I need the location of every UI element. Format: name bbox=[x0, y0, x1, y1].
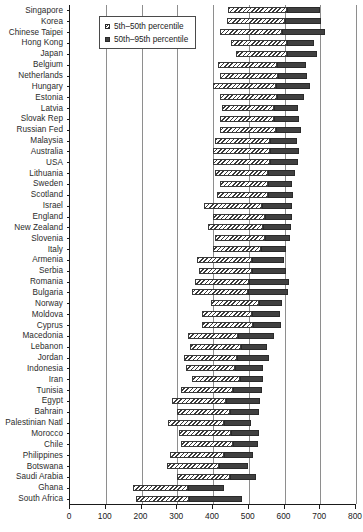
y-tick-mark bbox=[67, 292, 70, 293]
bar-segment-5th-50th bbox=[192, 289, 248, 295]
bar-segment-5th-50th bbox=[186, 365, 235, 371]
category-label: Bahrain bbox=[34, 407, 63, 416]
bar-segment-5th-50th bbox=[220, 181, 268, 187]
bar-segment-50th-95th bbox=[287, 40, 314, 46]
y-tick-mark bbox=[67, 65, 70, 66]
bar-segment-50th-95th bbox=[277, 94, 305, 100]
y-tick-mark bbox=[67, 412, 70, 413]
bar-segment-5th-50th bbox=[211, 300, 259, 306]
bar-segment-50th-95th bbox=[230, 474, 256, 480]
y-tick-mark bbox=[67, 86, 70, 87]
bar-segment-50th-95th bbox=[276, 127, 301, 133]
bar-segment-5th-50th bbox=[204, 203, 262, 209]
bar-segment-5th-50th bbox=[177, 474, 230, 480]
gridline-600 bbox=[285, 5, 286, 504]
x-tick-mark-200 bbox=[141, 505, 142, 509]
bar-segment-5th-50th bbox=[167, 463, 220, 469]
y-tick-mark bbox=[67, 260, 70, 261]
y-tick-mark bbox=[67, 336, 70, 337]
value-axis: 0100200300400500600700800 bbox=[0, 505, 363, 525]
bar-segment-5th-50th bbox=[220, 116, 274, 122]
bar-segment-50th-95th bbox=[252, 268, 286, 274]
y-tick-mark bbox=[67, 282, 70, 283]
x-tick-mark-800 bbox=[355, 505, 356, 509]
category-label: Netherlands bbox=[18, 71, 63, 80]
y-tick-mark bbox=[67, 433, 70, 434]
category-label: USA bbox=[46, 158, 63, 167]
y-tick-mark bbox=[67, 184, 70, 185]
y-tick-mark bbox=[67, 401, 70, 402]
category-label: Armenia bbox=[32, 255, 63, 264]
bar-segment-50th-95th bbox=[265, 235, 290, 241]
bar-segment-50th-95th bbox=[274, 116, 298, 122]
y-tick-mark bbox=[67, 368, 70, 369]
x-tick-mark-300 bbox=[176, 505, 177, 509]
bar-segment-50th-95th bbox=[287, 7, 320, 13]
category-label: Japan bbox=[40, 49, 63, 58]
y-tick-mark bbox=[67, 195, 70, 196]
bar-segment-5th-50th bbox=[188, 333, 238, 339]
bar-segment-5th-50th bbox=[222, 105, 274, 111]
y-tick-mark bbox=[67, 108, 70, 109]
bar-segment-5th-50th bbox=[192, 376, 240, 382]
chart-legend: 5th–50th percentile 50th–95th percentile bbox=[99, 16, 196, 49]
category-label: Bulgaria bbox=[33, 288, 63, 297]
gridline-100 bbox=[106, 5, 107, 504]
x-tick-mark-500 bbox=[248, 505, 249, 509]
y-tick-mark bbox=[67, 466, 70, 467]
bar-segment-50th-95th bbox=[277, 62, 306, 68]
category-label: Moldova bbox=[32, 310, 63, 319]
bar-segment-5th-50th bbox=[202, 311, 252, 317]
x-tick-label: 600 bbox=[277, 512, 291, 521]
bar-segment-5th-50th bbox=[231, 40, 287, 46]
category-label: Italy bbox=[48, 245, 63, 254]
legend-swatch-hatched-icon bbox=[105, 24, 110, 29]
y-tick-mark bbox=[67, 238, 70, 239]
bar-segment-5th-50th bbox=[177, 409, 230, 415]
bar-segment-5th-50th bbox=[213, 159, 270, 165]
y-tick-mark bbox=[67, 32, 70, 33]
category-label: England bbox=[33, 212, 63, 221]
bar-segment-50th-95th bbox=[189, 496, 242, 502]
category-label: Cyprus bbox=[37, 321, 63, 330]
bar-segment-5th-50th bbox=[197, 257, 252, 263]
category-label: Slovak Rep bbox=[21, 114, 63, 123]
y-tick-mark bbox=[67, 271, 70, 272]
category-label: Lithuania bbox=[29, 169, 63, 178]
y-tick-mark bbox=[67, 444, 70, 445]
category-label: Lebanon bbox=[31, 342, 63, 351]
bar-segment-50th-95th bbox=[238, 333, 274, 339]
bar-segment-5th-50th bbox=[213, 214, 265, 220]
x-tick-label: 0 bbox=[67, 512, 72, 521]
y-tick-mark bbox=[67, 54, 70, 55]
gridline-700 bbox=[320, 5, 321, 504]
bar-segment-50th-95th bbox=[235, 365, 263, 371]
bar-segment-50th-95th bbox=[265, 214, 292, 220]
category-label: Botswana bbox=[27, 462, 63, 471]
bar-segment-5th-50th bbox=[199, 268, 253, 274]
bar-segment-50th-95th bbox=[274, 105, 298, 111]
y-tick-mark bbox=[67, 10, 70, 11]
bar-segment-5th-50th bbox=[217, 192, 269, 198]
y-tick-mark bbox=[67, 379, 70, 380]
x-tick-label: 100 bbox=[98, 512, 112, 521]
y-tick-mark bbox=[67, 130, 70, 131]
bar-segment-50th-95th bbox=[276, 83, 311, 89]
y-tick-mark bbox=[67, 314, 70, 315]
bar-segment-50th-95th bbox=[259, 300, 281, 306]
bar-segment-50th-95th bbox=[270, 148, 299, 154]
y-tick-mark bbox=[67, 390, 70, 391]
x-tick-mark-100 bbox=[105, 505, 106, 509]
bar-segment-50th-95th bbox=[224, 452, 253, 458]
y-tick-mark bbox=[67, 206, 70, 207]
bar-segment-5th-50th bbox=[136, 496, 189, 502]
category-label: Saudi Arabia bbox=[16, 472, 63, 481]
category-label: New Zealand bbox=[14, 223, 63, 232]
bar-segment-50th-95th bbox=[219, 463, 248, 469]
y-tick-mark bbox=[67, 97, 70, 98]
bar-segment-5th-50th bbox=[184, 355, 237, 361]
bar-segment-50th-95th bbox=[253, 322, 281, 328]
bar-segment-5th-50th bbox=[220, 127, 275, 133]
category-label: Scotland bbox=[31, 190, 63, 199]
x-tick-label: 700 bbox=[312, 512, 326, 521]
